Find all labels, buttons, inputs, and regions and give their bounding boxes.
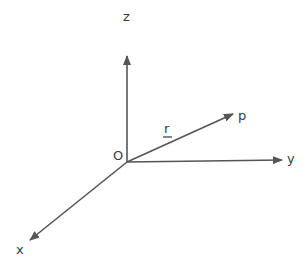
point-p-label: p: [238, 108, 246, 123]
y-axis: [127, 160, 282, 162]
coordinate-diagram: z y x r p O: [0, 0, 307, 266]
origin-label: O: [113, 148, 123, 163]
x-axis-label: x: [16, 242, 24, 257]
position-vector-r: [127, 114, 233, 162]
x-axis: [30, 162, 127, 240]
z-axis-label: z: [123, 9, 130, 24]
y-axis-label: y: [287, 151, 295, 166]
vector-r-label: r: [164, 121, 170, 136]
